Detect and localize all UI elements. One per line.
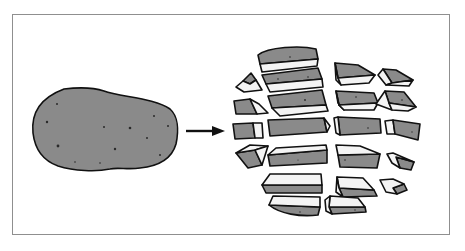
arrow-right-icon — [186, 126, 225, 136]
diagram-canvas — [0, 0, 465, 251]
potato-pieces — [233, 47, 420, 216]
whole-potato — [33, 88, 178, 171]
